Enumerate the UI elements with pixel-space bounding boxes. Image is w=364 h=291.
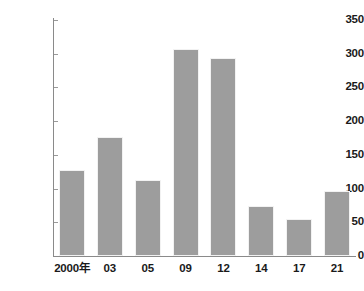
- x-axis-tick-label: 17: [293, 262, 305, 275]
- bar: [286, 219, 312, 256]
- bar: [324, 191, 350, 256]
- bar: [135, 180, 161, 256]
- x-axis-tick-label: 21: [331, 262, 343, 275]
- bar: [210, 58, 236, 256]
- x-axis-tick-label: 2000年: [54, 262, 90, 275]
- bar-series: [53, 0, 356, 291]
- bar-chart: 050100150200250300350 2000年0305091214172…: [0, 0, 364, 291]
- x-axis-tick-label: 14: [255, 262, 267, 275]
- bar: [248, 206, 274, 256]
- x-axis-tick-label: 09: [179, 262, 191, 275]
- bar: [173, 49, 199, 256]
- x-axis-tick-label: 05: [141, 262, 153, 275]
- bar: [59, 170, 85, 256]
- x-axis-tick-label: 03: [104, 262, 116, 275]
- x-axis-tick-label: 12: [217, 262, 229, 275]
- bar: [97, 137, 123, 256]
